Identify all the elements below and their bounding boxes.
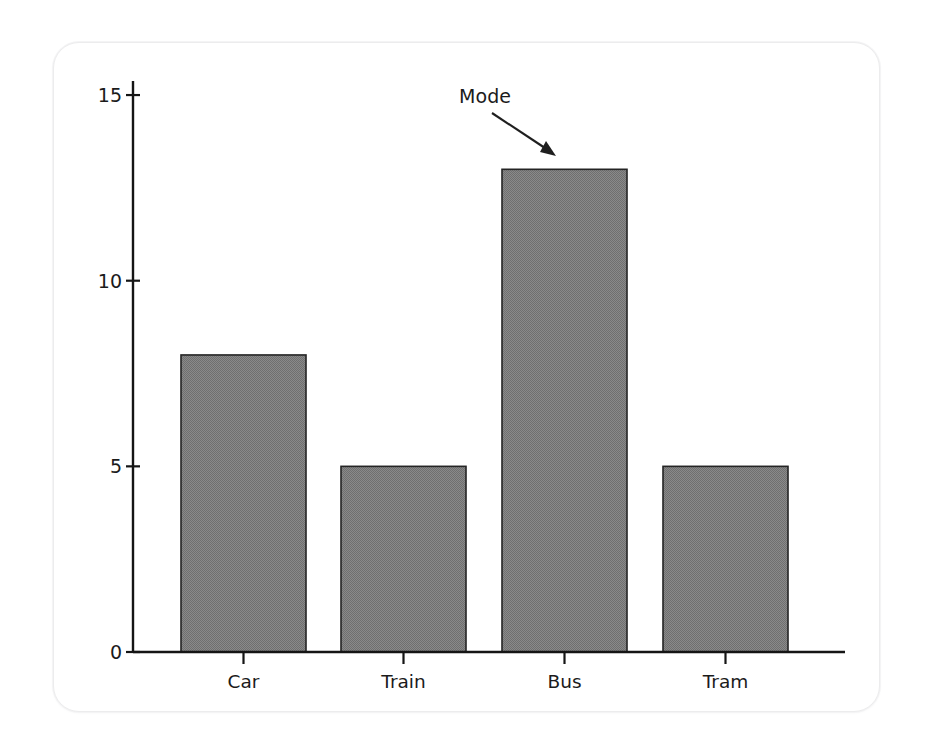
x-tick-label-tram: Tram [702,671,749,692]
x-tick-label-train: Train [380,671,425,692]
mode-annotation: Mode [459,85,556,156]
y-tick-label: 0 [110,641,122,663]
bar-car[interactable] [181,355,306,652]
x-tick-label-bus: Bus [547,671,581,692]
x-axis-ticks: CarTrainBusTram [228,652,749,692]
annotation-arrow-head-icon [540,141,556,156]
y-tick-label: 15 [98,84,122,106]
bars-group [181,169,788,652]
y-tick-label: 10 [98,270,122,292]
chart-svg: 051015 CarTrainBusTram Mode [0,0,934,752]
annotation-label-mode: Mode [459,85,511,107]
y-tick-label: 5 [110,455,122,477]
annotation-arrow-line [492,113,548,150]
bar-train[interactable] [341,466,466,652]
x-tick-label-car: Car [228,671,260,692]
bar-bus[interactable] [502,169,627,652]
bar-tram[interactable] [663,466,788,652]
bar-chart-plot: 051015 CarTrainBusTram Mode [0,0,934,752]
